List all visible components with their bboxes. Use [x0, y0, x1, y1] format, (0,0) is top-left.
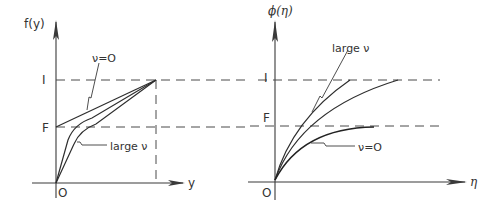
- right-level-upper-label: I: [264, 71, 268, 85]
- right-level-lower-label: F: [263, 111, 270, 125]
- right-y-axis-label: ϕ(η): [268, 4, 293, 18]
- right-annotation-large-nu: large ν: [332, 42, 370, 55]
- left-curve-large-nu: [56, 80, 156, 183]
- left-annotation-large-nu: large ν: [110, 140, 148, 153]
- diagram-canvas: f(y) y O I F ν=O large ν ϕ(η) η O I F la…: [0, 0, 498, 211]
- left-y-axis-label: f(y): [24, 17, 45, 31]
- left-leader-nu-zero: [87, 63, 99, 110]
- right-leader-nu-zero: [311, 143, 355, 146]
- right-curve-large-nu: [275, 80, 350, 180]
- left-level-lower-label: F: [42, 121, 49, 135]
- left-x-axis-label: y: [188, 176, 195, 190]
- right-x-axis-label: η: [470, 175, 478, 189]
- left-curve-nu-zero: [56, 80, 156, 127]
- right-origin-label: O: [262, 186, 271, 200]
- left-leader-large-nu: [77, 142, 107, 145]
- left-annotation-nu-zero: ν=O: [92, 52, 116, 65]
- right-curve-intermediate: [275, 80, 398, 180]
- left-curve-intermediate: [56, 80, 156, 183]
- right-annotation-nu-zero: ν=O: [358, 141, 382, 154]
- left-level-upper-label: I: [42, 73, 46, 87]
- right-panel: ϕ(η) η O I F large ν ν=O: [248, 4, 478, 200]
- left-panel: f(y) y O I F ν=O large ν: [24, 17, 250, 200]
- left-origin-label: O: [58, 186, 67, 200]
